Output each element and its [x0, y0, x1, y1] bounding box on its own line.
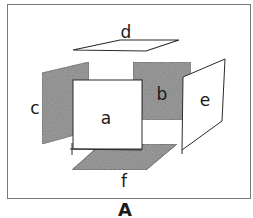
face-d-label: d: [121, 22, 132, 42]
face-a-label: a: [101, 108, 111, 128]
face-f: f: [72, 144, 177, 191]
face-d: d: [73, 22, 179, 51]
diagram-caption: A: [118, 199, 132, 218]
face-e-label: e: [200, 90, 210, 110]
face-f-label: f: [121, 171, 128, 191]
face-a: a: [70, 80, 142, 155]
face-b-label: b: [157, 84, 168, 104]
face-c-label: c: [30, 98, 39, 118]
exploded-cube-diagram: d c b f a e A: [0, 0, 253, 218]
